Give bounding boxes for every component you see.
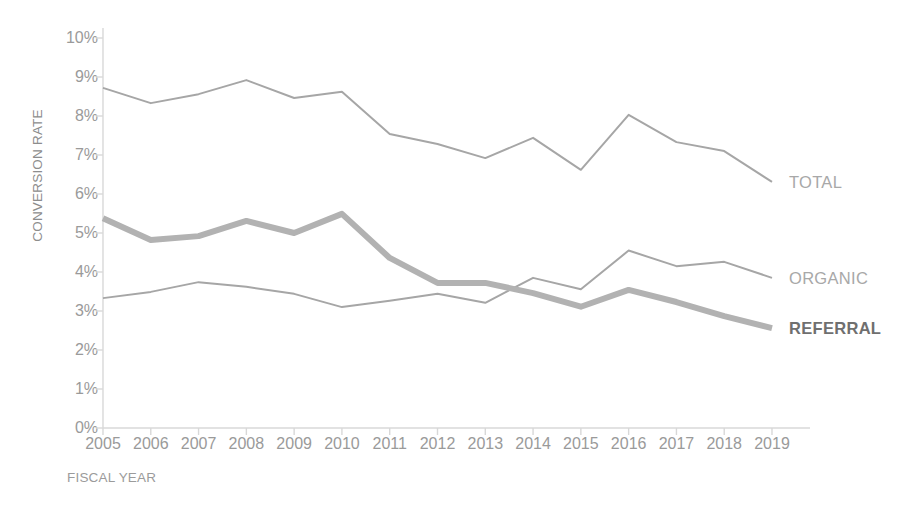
conversion-rate-line-chart: CONVERSION RATE 10%9%8%7%6%5%4%3%2%1%0% … [0, 0, 917, 521]
x-axis-title: FISCAL YEAR [67, 470, 156, 485]
series-label-total: TOTAL [789, 174, 842, 191]
series-label-referral: REFERRAL [789, 320, 881, 337]
x-axis-tick-labels: 2005200620072008200920102011201220132014… [0, 0, 917, 521]
series-label-organic: ORGANIC [789, 270, 868, 287]
x-tick-label: 2019 [742, 436, 802, 452]
